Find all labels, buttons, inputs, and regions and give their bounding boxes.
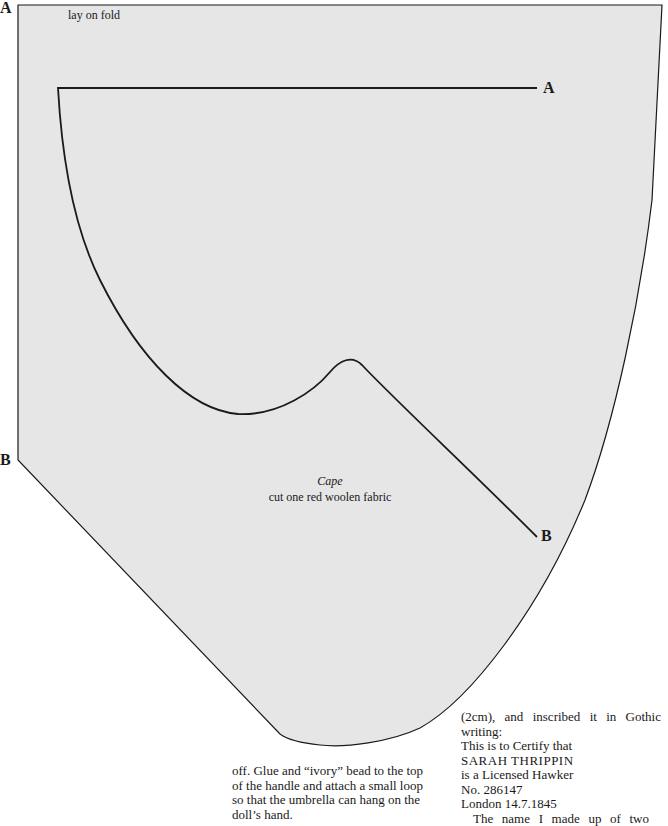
marker-a-top-left: A — [0, 0, 12, 16]
body-text-line: doll’s hand. — [232, 808, 464, 823]
body-text-line: writing: — [461, 725, 668, 740]
body-text-left-column: off. Glue and “ivory” bead to the top of… — [232, 764, 464, 826]
marker-a-top-right: A — [543, 80, 555, 96]
marker-b-left: B — [0, 452, 11, 468]
body-text-line: of the handle and attach a small loop — [232, 779, 464, 794]
cape-outline — [18, 5, 662, 746]
certificate-date: London 14.7.1845 — [461, 797, 668, 812]
cape-pattern-piece — [0, 0, 668, 826]
certificate-name: SARAH THRIPPIN — [461, 754, 668, 769]
body-text-line: (2cm), and inscribed it in Gothic — [461, 710, 661, 725]
pattern-title: Cape — [230, 474, 430, 488]
fold-note: lay on fold — [68, 8, 120, 22]
certificate-line: is a Licensed Hawker — [461, 768, 668, 783]
body-text-right-column: (2cm), and inscribed it in Gothic writin… — [461, 710, 668, 826]
body-text-line: off. Glue and “ivory” bead to the top — [232, 764, 464, 779]
marker-b-right: B — [541, 528, 552, 544]
pattern-instruction: cut one red woolen fabric — [230, 490, 430, 504]
certificate-number: No. 286147 — [461, 783, 668, 798]
body-text-line: The name I made up of two — [461, 812, 649, 826]
certificate-line: This is to Certify that — [461, 739, 668, 754]
body-text-line: so that the umbrella can hang on the — [232, 793, 464, 808]
